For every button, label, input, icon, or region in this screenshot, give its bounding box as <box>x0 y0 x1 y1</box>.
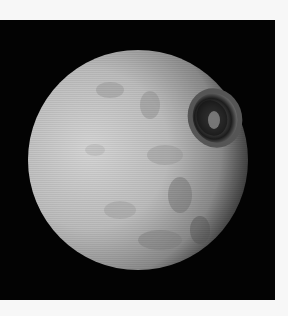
photo-frame <box>0 20 275 300</box>
moon-photo <box>0 20 275 300</box>
moon <box>0 20 275 300</box>
